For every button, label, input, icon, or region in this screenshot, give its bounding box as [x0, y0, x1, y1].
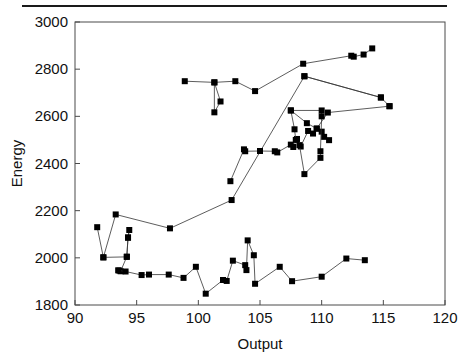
data-point-marker: [146, 272, 152, 278]
data-point-marker: [113, 211, 119, 217]
y-tick-label: 1800: [35, 296, 68, 313]
data-point-marker: [369, 45, 375, 51]
data-point-marker: [319, 113, 325, 119]
data-point-marker: [167, 225, 173, 231]
data-point-marker: [277, 264, 283, 270]
axes-layer: [75, 22, 445, 305]
series-trajectory-crossing: [301, 73, 383, 100]
x-tick-label: 115: [371, 309, 395, 326]
data-point-marker: [325, 110, 331, 116]
data-point-marker: [326, 137, 332, 143]
data-point-marker: [139, 272, 145, 278]
x-tick-label: 100: [186, 309, 211, 326]
series-trajectory-mid-rise: [227, 126, 332, 185]
data-point-marker: [227, 178, 233, 184]
data-series-layer: [94, 45, 392, 296]
data-point-marker: [362, 257, 368, 263]
data-point-marker: [252, 281, 258, 287]
x-tick-label: 90: [67, 309, 84, 326]
series-trajectory-low: [94, 73, 392, 260]
x-axis-title: Output: [237, 335, 283, 352]
x-tick-label: 95: [128, 309, 145, 326]
y-tick-label: 2200: [35, 202, 68, 219]
data-point-marker: [252, 88, 258, 94]
data-point-marker: [251, 252, 257, 258]
data-point-marker: [100, 254, 106, 260]
data-point-marker: [290, 144, 296, 150]
data-point-marker: [301, 73, 307, 79]
data-point-marker: [317, 148, 323, 154]
data-point-marker: [289, 278, 295, 284]
y-tick-label: 3000: [35, 13, 68, 30]
data-point-marker: [125, 235, 131, 241]
data-point-marker: [243, 267, 249, 273]
data-point-marker: [211, 79, 217, 85]
y-tick-label: 2000: [35, 249, 68, 266]
data-point-marker: [351, 54, 357, 60]
data-point-marker: [301, 171, 307, 177]
data-point-marker: [361, 52, 367, 58]
series-line: [291, 106, 390, 174]
series-trajectory-bottom: [115, 237, 368, 296]
data-point-marker: [288, 107, 294, 113]
data-point-marker: [319, 107, 325, 113]
y-tick-label: 2800: [35, 60, 68, 77]
data-point-marker: [317, 155, 323, 161]
data-point-marker: [343, 256, 349, 262]
chart-figure: 9095100105110115120180020002200240026002…: [0, 0, 469, 356]
data-point-marker: [232, 78, 238, 84]
data-point-marker: [203, 291, 209, 297]
data-point-marker: [296, 142, 302, 148]
data-point-marker: [292, 126, 298, 132]
data-point-marker: [274, 149, 280, 155]
x-tick-label: 120: [432, 309, 457, 326]
energy-vs-output-chart: 9095100105110115120180020002200240026002…: [0, 0, 469, 356]
series-line: [97, 76, 389, 257]
data-point-marker: [300, 61, 306, 67]
series-trajectory-upper: [182, 45, 375, 115]
data-point-marker: [211, 109, 217, 115]
data-point-marker: [224, 278, 230, 284]
data-point-marker: [378, 94, 384, 100]
data-point-marker: [245, 237, 251, 243]
data-point-marker: [124, 254, 130, 260]
data-point-marker: [387, 103, 393, 109]
data-point-marker: [94, 224, 100, 230]
data-point-marker: [181, 275, 187, 281]
y-tick-label: 2400: [35, 155, 68, 172]
data-point-marker: [230, 258, 236, 264]
data-point-marker: [115, 267, 121, 273]
data-point-marker: [314, 126, 320, 132]
data-point-marker: [242, 148, 248, 154]
data-point-marker: [304, 120, 310, 126]
data-point-marker: [218, 98, 224, 104]
series-line: [304, 76, 380, 97]
y-axis-title: Energy: [8, 139, 25, 187]
data-point-marker: [193, 264, 199, 270]
data-point-marker: [229, 197, 235, 203]
data-point-marker: [293, 137, 299, 143]
data-point-marker: [126, 227, 132, 233]
series-line: [118, 240, 365, 293]
x-tick-label: 105: [247, 309, 272, 326]
data-point-marker: [319, 274, 325, 280]
data-point-marker: [182, 78, 188, 84]
data-point-marker: [257, 148, 263, 154]
x-tick-label: 110: [310, 309, 334, 326]
y-tick-label: 2600: [35, 107, 68, 124]
data-point-marker: [166, 272, 172, 278]
plot-frame: [75, 22, 445, 305]
data-point-marker: [123, 269, 129, 275]
